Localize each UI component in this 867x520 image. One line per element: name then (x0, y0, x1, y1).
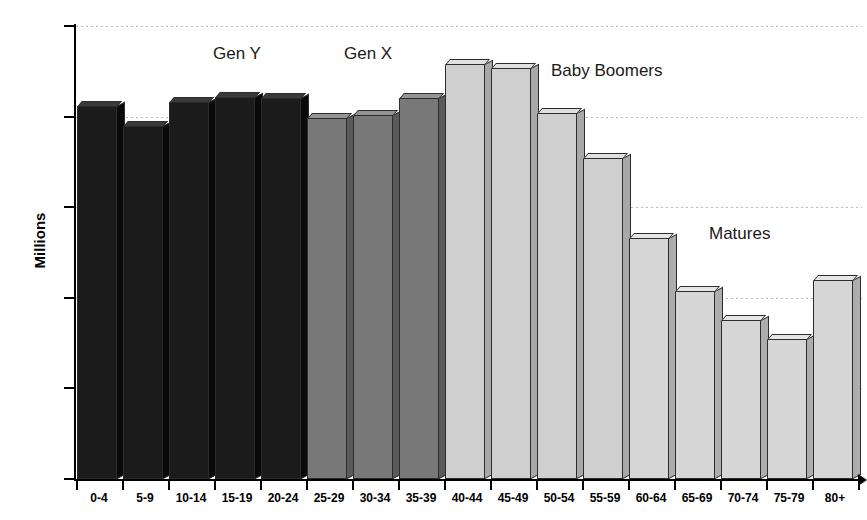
bar-top (721, 315, 766, 321)
bar-top (169, 97, 214, 103)
bar-face (813, 280, 853, 479)
bar-top (445, 59, 490, 65)
gridline (76, 26, 862, 27)
x-tick-label-5-9: 5-9 (122, 491, 168, 505)
bar-80+ (813, 280, 853, 479)
y-tick-mark (64, 387, 75, 389)
x-tick-label-0-4: 0-4 (76, 491, 122, 505)
bar-side (853, 275, 861, 479)
x-tick-mark (352, 481, 354, 490)
y-tick-mark (64, 25, 75, 27)
bar-top (767, 334, 812, 340)
x-tick-label-80+: 80+ (812, 491, 858, 505)
bar-face (353, 115, 393, 479)
x-tick-mark (720, 481, 722, 490)
annotation-gen-y: Gen Y (213, 44, 261, 64)
x-tick-mark (444, 481, 446, 490)
x-tick-label-75-79: 75-79 (766, 491, 812, 505)
bar-face (767, 339, 807, 479)
bar-top (77, 101, 122, 107)
x-tick-label-25-29: 25-29 (306, 491, 352, 505)
x-tick-label-55-59: 55-59 (582, 491, 628, 505)
bar-top (307, 113, 352, 119)
x-tick-mark (214, 481, 216, 490)
x-tick-mark (674, 481, 676, 490)
bar-50-54 (537, 113, 577, 479)
x-tick-mark (536, 481, 538, 490)
y-tick-mark (64, 297, 75, 299)
x-tick-mark (628, 481, 630, 490)
annotation-baby-boomers: Baby Boomers (551, 61, 663, 81)
bar-face (445, 64, 485, 479)
x-tick-mark (582, 481, 584, 490)
bar-face (307, 118, 347, 479)
bar-top (123, 121, 168, 127)
x-tick-mark (398, 481, 400, 490)
x-tick-label-15-19: 15-19 (214, 491, 260, 505)
bar-face (77, 106, 117, 479)
y-tick-mark (64, 206, 75, 208)
bar-top (261, 93, 306, 99)
bar-top (813, 275, 858, 281)
bar-face (721, 320, 761, 479)
bar-top (675, 286, 720, 292)
bar-face (491, 68, 531, 479)
bar-top (353, 110, 398, 116)
x-tick-mark (306, 481, 308, 490)
bar-25-29 (307, 118, 347, 479)
x-tick-label-35-39: 35-39 (398, 491, 444, 505)
bar-top (399, 93, 444, 99)
x-tick-mark (168, 481, 170, 490)
bar-55-59 (583, 158, 623, 479)
bar-face (629, 238, 669, 479)
bar-45-49 (491, 68, 531, 479)
x-tick-mark (122, 481, 124, 490)
bar-5-9 (123, 126, 163, 479)
y-tick-mark (64, 116, 75, 118)
bar-face (169, 102, 209, 479)
bar-65-69 (675, 291, 715, 479)
x-tick-mark (858, 481, 860, 490)
x-tick-mark-origin (76, 481, 78, 490)
annotation-matures: Matures (709, 224, 770, 244)
x-tick-mark (490, 481, 492, 490)
x-tick-label-20-24: 20-24 (260, 491, 306, 505)
annotation-gen-x: Gen X (344, 44, 392, 64)
bar-top (629, 233, 674, 239)
x-tick-label-60-64: 60-64 (628, 491, 674, 505)
bar-top (583, 153, 628, 159)
bar-10-14 (169, 102, 209, 479)
bar-face (123, 126, 163, 479)
bar-face (399, 98, 439, 479)
bar-top (491, 63, 536, 69)
bar-face (583, 158, 623, 479)
bar-20-24 (261, 98, 301, 479)
x-tick-label-50-54: 50-54 (536, 491, 582, 505)
x-tick-label-10-14: 10-14 (168, 491, 214, 505)
bar-face (537, 113, 577, 479)
x-tick-label-40-44: 40-44 (444, 491, 490, 505)
bar-face (261, 98, 301, 479)
bar-face (675, 291, 715, 479)
x-tick-mark (812, 481, 814, 490)
bar-face (215, 97, 255, 479)
bar-75-79 (767, 339, 807, 479)
bar-70-74 (721, 320, 761, 479)
x-tick-label-45-49: 45-49 (490, 491, 536, 505)
x-tick-label-65-69: 65-69 (674, 491, 720, 505)
bar-0-4 (77, 106, 117, 479)
x-tick-mark (260, 481, 262, 490)
bar-35-39 (399, 98, 439, 479)
bar-30-34 (353, 115, 393, 479)
x-axis-line (74, 479, 862, 481)
y-axis-title: Millions (31, 186, 48, 296)
x-tick-label-70-74: 70-74 (720, 491, 766, 505)
x-tick-label-30-34: 30-34 (352, 491, 398, 505)
x-tick-mark (766, 481, 768, 490)
bar-top (537, 108, 582, 114)
bar-top (215, 92, 260, 98)
bar-40-44 (445, 64, 485, 479)
y-axis-line (74, 24, 76, 481)
bar-15-19 (215, 97, 255, 479)
